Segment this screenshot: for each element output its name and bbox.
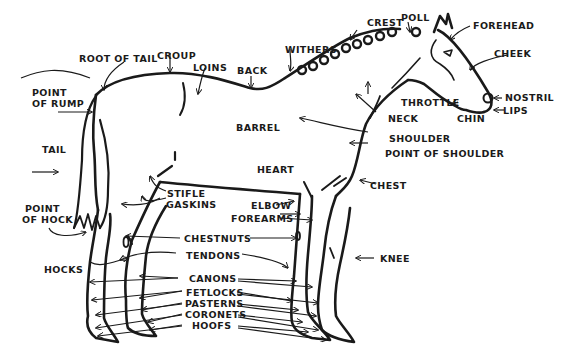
label-chest: CHEST (370, 180, 407, 191)
label-throttle: THROTTLE (401, 97, 460, 108)
label-gaskins: GASKINS (166, 199, 216, 210)
label-lips: LIPS (503, 105, 528, 116)
label-point-of-hock-line2: OF HOCK (22, 214, 73, 225)
label-loins: LOINS (193, 62, 227, 73)
label-point-of-rump-line1: POINT (32, 87, 67, 98)
label-chin: CHIN (457, 113, 485, 124)
label-point-of-rump-line2: OF RUMP (32, 98, 84, 109)
label-hocks: HOCKS (44, 264, 83, 275)
label-tendons: TENDONS (186, 250, 240, 261)
label-coronets: CORONETS (185, 309, 246, 320)
label-tail: TAIL (42, 144, 66, 155)
label-stifle: STIFLE (167, 188, 205, 199)
label-withers: WITHERS (285, 44, 337, 55)
label-barrel: BARREL (236, 122, 280, 133)
label-croup: CROUP (157, 50, 196, 61)
label-knee: KNEE (380, 253, 410, 264)
label-nostril: NOSTRIL (505, 92, 554, 103)
label-root-of-tail: ROOT OF TAIL (79, 53, 158, 64)
label-point-of-hock-line1: POINT (25, 203, 60, 214)
label-back: BACK (237, 65, 268, 76)
label-cheek: CHEEK (494, 48, 531, 59)
label-pasterns: PASTERNS (185, 298, 244, 309)
label-forearms: FOREARMS (231, 213, 294, 224)
label-shoulder: SHOULDER (389, 133, 451, 144)
label-neck: NECK (388, 113, 418, 124)
label-canons: CANONS (189, 273, 237, 284)
horse-anatomy-diagram: CREST POLL FOREHEAD WITHERS ROOT OF TAIL… (0, 0, 566, 363)
label-elbow: ELBOW (251, 200, 291, 211)
label-forehead: FOREHEAD (473, 20, 534, 31)
label-chestnuts: CHESTNUTS (184, 233, 251, 244)
label-poll: POLL (401, 12, 430, 23)
label-fetlocks: FETLOCKS (186, 287, 244, 298)
label-point-of-shoulder: POINT OF SHOULDER (385, 148, 504, 159)
label-heart: HEART (257, 164, 294, 175)
label-hoofs: HOOFS (192, 320, 231, 331)
label-crest: CREST (367, 17, 403, 28)
